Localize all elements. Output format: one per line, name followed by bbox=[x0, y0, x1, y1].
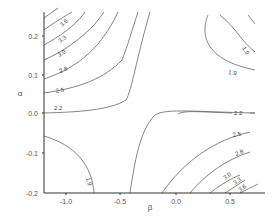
svg-text:0.2: 0.2 bbox=[28, 33, 38, 40]
svg-text:-0.5: -0.5 bbox=[114, 198, 126, 205]
x-axis-label: β bbox=[148, 203, 153, 212]
svg-text:2.2: 2.2 bbox=[234, 110, 243, 116]
svg-text:0.0: 0.0 bbox=[171, 198, 181, 205]
contours-upper-right bbox=[205, 15, 255, 70]
svg-text:-0.1: -0.1 bbox=[26, 150, 38, 157]
svg-text:2.8: 2.8 bbox=[234, 148, 245, 157]
svg-text:0.1: 0.1 bbox=[28, 72, 38, 79]
y-axis-label: α bbox=[18, 89, 23, 98]
svg-text:-0.2: -0.2 bbox=[26, 190, 38, 197]
svg-text:1.9: 1.9 bbox=[85, 177, 93, 187]
svg-text:2.8: 2.8 bbox=[58, 65, 69, 74]
contour-chart: 3.6 3.3 3.0 2.8 2.5 2.2 1.9 1.9 2.2 1.9 … bbox=[0, 0, 277, 219]
contour-1.9-lower-left bbox=[44, 136, 94, 193]
svg-text:1.9: 1.9 bbox=[228, 69, 238, 76]
svg-text:2.5: 2.5 bbox=[232, 131, 242, 138]
svg-text:-1.0: -1.0 bbox=[60, 198, 72, 205]
y-ticks: -0.2 -0.1 0.0 0.1 0.2 bbox=[26, 33, 44, 197]
svg-text:2.5: 2.5 bbox=[55, 87, 65, 94]
svg-text:3.0: 3.0 bbox=[57, 48, 68, 58]
svg-text:2.2: 2.2 bbox=[54, 105, 63, 111]
svg-text:3.3: 3.3 bbox=[57, 34, 68, 44]
contour-labels: 3.6 3.3 3.0 2.8 2.5 2.2 1.9 1.9 2.2 1.9 … bbox=[54, 17, 251, 192]
svg-text:0.5: 0.5 bbox=[225, 198, 235, 205]
svg-text:0.0: 0.0 bbox=[28, 110, 38, 117]
